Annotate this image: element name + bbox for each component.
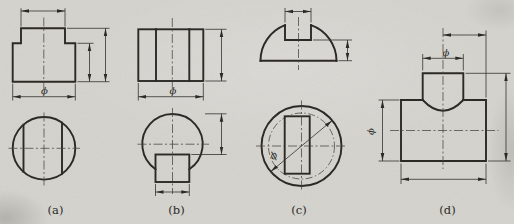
phi-symbol-d-left: ϕ: [365, 128, 376, 135]
subfigure-label-c: (c): [291, 203, 306, 217]
paper-grain-texture: [0, 0, 514, 224]
subfigure-label-d: (d): [439, 203, 455, 217]
phi-symbol-a: ϕ: [41, 85, 48, 96]
engineering-drawing-canvas: ϕ (a) ϕ: [0, 0, 514, 224]
subfigure-label-a: (a): [48, 203, 64, 217]
phi-symbol-d-top: ϕ: [443, 47, 450, 58]
subfigure-label-b: (b): [168, 203, 184, 217]
scanned-textbook-figure: ϕ (a) ϕ: [0, 0, 514, 224]
phi-symbol-b: ϕ: [169, 85, 176, 96]
